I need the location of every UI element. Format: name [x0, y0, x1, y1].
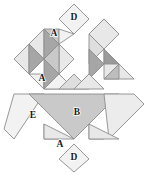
parallelogram-right [104, 94, 144, 139]
label-d-top: D [71, 12, 78, 22]
pieces-layer [4, 4, 144, 172]
label-e: E [30, 110, 36, 120]
triangle-center-upper-light [59, 44, 74, 74]
triangle-right-core-dark [104, 49, 119, 64]
tangram-figure: DAABEAD [0, 0, 155, 175]
triangle-mid-left-light [14, 44, 29, 74]
label-a-top: A [51, 28, 58, 38]
label-a-mid: A [39, 73, 46, 83]
tangram-svg-canvas: DAABEAD [0, 0, 155, 175]
label-a-bottom: A [57, 139, 64, 149]
label-d-bottom: D [71, 152, 78, 162]
label-b: B [74, 107, 81, 117]
